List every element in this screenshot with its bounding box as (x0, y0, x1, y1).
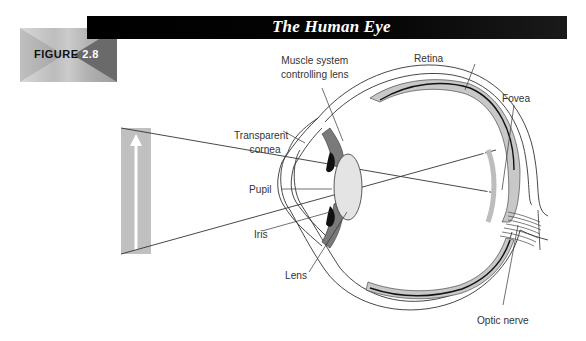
label-retina: Retina (414, 51, 443, 65)
label-lens: Lens (285, 268, 307, 282)
label-cornea: Transparent cornea (234, 128, 288, 156)
label-cornea-line1: Transparent (234, 128, 288, 142)
iris (326, 152, 335, 227)
label-iris: Iris (254, 227, 268, 241)
light-rays (121, 128, 496, 254)
retina (366, 80, 520, 299)
lens (334, 154, 362, 220)
label-optic-nerve: Optic nerve (477, 313, 529, 327)
object-arrow (121, 128, 151, 254)
eye-diagram (0, 0, 586, 341)
label-pupil: Pupil (249, 182, 272, 196)
label-fovea: Fovea (502, 91, 530, 105)
label-muscle-line2: controlling lens (281, 67, 349, 81)
label-muscle-line1: Muscle system (281, 53, 349, 67)
label-cornea-line2: cornea (234, 142, 288, 156)
label-muscle-system: Muscle system controlling lens (281, 53, 349, 81)
